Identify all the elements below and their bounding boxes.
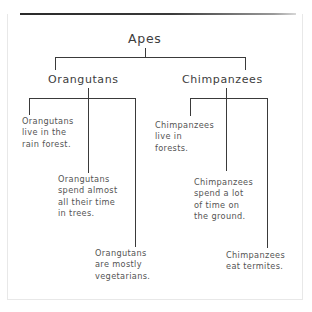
connector-chimpanzees-stub [226, 88, 227, 98]
tree-leaf-orangutans-1: Orangutans live in the rain forest. [22, 116, 74, 150]
connector-chimpanzees-leaf-1 [190, 98, 191, 116]
connector-orangutans-leaf-3 [135, 98, 136, 247]
connector-root-to-orangutans [55, 57, 56, 70]
tree-leaf-chimpanzees-1: Chimpanzees live in forests. [155, 120, 214, 154]
connector-root-to-chimpanzees [245, 57, 246, 70]
connector-orangutans-leaf-2 [88, 98, 89, 173]
tree-leaf-chimpanzees-2: Chimpanzees spend a lot of time on the g… [194, 177, 253, 223]
diagram-page: a i s s Apes Orangutans Orangutans live … [0, 0, 312, 312]
connector-orangutans-bar [29, 98, 135, 99]
tree-leaf-orangutans-2: Orangutans spend almost all their time i… [58, 174, 117, 220]
connector-chimpanzees-leaf-3 [267, 98, 268, 248]
tree-leaf-chimpanzees-3: Chimpanzees eat termites. [226, 250, 285, 273]
tree-node-chimpanzees: Chimpanzees [182, 73, 263, 86]
connector-chimpanzees-leaf-2 [226, 98, 227, 171]
connector-orangutans-stub [88, 88, 89, 98]
tree-leaf-orangutans-3: Orangutans are mostly vegetarians. [95, 248, 150, 282]
ape-tree-diagram: Apes Orangutans Orangutans live in the r… [0, 0, 312, 312]
tree-node-root-apes: Apes [128, 31, 162, 46]
connector-chimpanzees-bar [190, 98, 267, 99]
connector-root-bar [55, 57, 245, 58]
connector-orangutans-leaf-1 [29, 98, 30, 115]
connector-root-stub [145, 48, 146, 57]
tree-node-orangutans: Orangutans [48, 73, 119, 86]
